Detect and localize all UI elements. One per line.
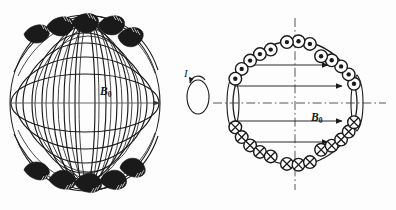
- field-arrows: [234, 65, 342, 142]
- winding-bundle: [47, 16, 73, 36]
- current-loop-ellipse: [187, 80, 209, 114]
- conductor-cross: [348, 116, 361, 129]
- label-current-I: I: [184, 68, 188, 79]
- current-loop-indicator: [187, 76, 209, 114]
- right-panel-cross-section: [187, 18, 386, 190]
- label-b0-left-subscript: 0: [108, 90, 112, 99]
- winding-top-bundles: [24, 13, 143, 47]
- label-b0-right-subscript: 0: [319, 116, 323, 125]
- winding-bundle: [24, 162, 50, 181]
- left-panel-spherical-coil: [10, 13, 160, 193]
- conductor-cross: [304, 156, 317, 169]
- conductor-cross: [281, 158, 294, 171]
- label-b0-left: B0: [100, 86, 111, 99]
- winding-bundle: [49, 170, 75, 190]
- winding-bundle: [100, 170, 126, 190]
- conductor-dot: [281, 36, 294, 49]
- winding-bundle: [24, 24, 50, 43]
- figure-canvas: [0, 0, 396, 210]
- conductor-dot: [229, 72, 242, 85]
- winding-loop: [58, 24, 122, 184]
- conductor-dot: [315, 50, 328, 63]
- figure-container: B0 B0 I: [0, 0, 396, 210]
- conductor-cross: [264, 150, 277, 163]
- label-b0-right: B0: [311, 112, 322, 125]
- label-b0-left-text: B: [100, 85, 108, 97]
- conductor-dot: [292, 35, 305, 48]
- winding-bundle: [75, 173, 101, 193]
- conductor-dot: [304, 38, 317, 51]
- conductor-cross: [292, 158, 305, 171]
- label-b0-right-text: B: [311, 111, 319, 123]
- conductor-dots-group: [229, 35, 360, 90]
